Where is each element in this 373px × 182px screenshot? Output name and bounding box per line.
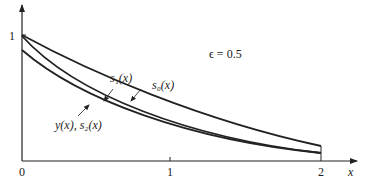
x-axis-label: x bbox=[347, 165, 354, 179]
x-tick-0-label: 0 bbox=[19, 165, 25, 179]
epsilon-annotation: ϵ = 0.5 bbox=[209, 47, 242, 61]
x-tick-1-label: 1 bbox=[167, 165, 173, 179]
y-tick-1-label: 1 bbox=[9, 29, 15, 43]
chart: 1 0 1 2 x ϵ = 0.5 s₀(x) s₁(x) y(x), s₂(x… bbox=[0, 0, 373, 182]
y-s2-arrow bbox=[78, 105, 89, 116]
y-s2-label: y(x), s₂(x) bbox=[54, 118, 102, 132]
s1-label: s₁(x) bbox=[110, 71, 132, 85]
s0-arrow bbox=[131, 89, 141, 101]
x-tick-2-label: 2 bbox=[318, 165, 324, 179]
s0-label: s₀(x) bbox=[152, 78, 174, 92]
